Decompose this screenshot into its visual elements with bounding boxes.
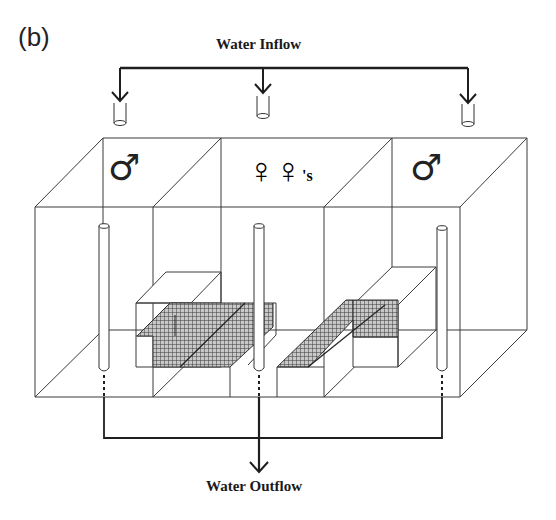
tank-diagram — [0, 0, 556, 520]
female-symbol-center: ♀♀'s — [248, 150, 313, 192]
male-symbol-right: ♂ — [410, 150, 442, 186]
inflow-manifold — [112, 68, 476, 103]
right-step — [277, 367, 324, 397]
male-symbol-left: ♂ — [108, 150, 140, 186]
female-symbols: ♀♀ — [248, 151, 302, 191]
outflow-manifold — [104, 397, 442, 472]
plural-suffix: 's — [302, 167, 313, 184]
floor-drains — [104, 375, 442, 397]
inflow-nozzles — [114, 96, 474, 127]
left-mesh-panel — [137, 303, 273, 367]
